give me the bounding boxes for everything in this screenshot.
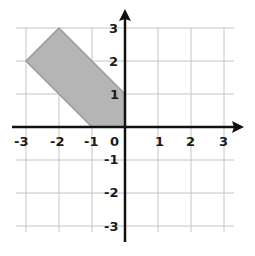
y-label-p3: 3 [109,22,118,35]
y-label-m2: -2 [104,186,118,199]
shaded-pentagon [26,28,125,127]
x-label-m3: -3 [14,135,28,148]
y-label-p1: 1 [110,88,119,101]
x-label-p1: 1 [155,135,164,148]
x-label-m2: -2 [50,135,64,148]
y-label-m1: -1 [104,153,118,166]
x-label-p3: 3 [219,135,228,148]
x-label-p2: 2 [186,135,195,148]
y-label-m3: -3 [104,220,118,233]
coordinate-plane [0,0,255,256]
y-label-p2: 2 [109,55,118,68]
x-label-zero: 0 [110,135,119,148]
x-label-m1: -1 [84,135,98,148]
